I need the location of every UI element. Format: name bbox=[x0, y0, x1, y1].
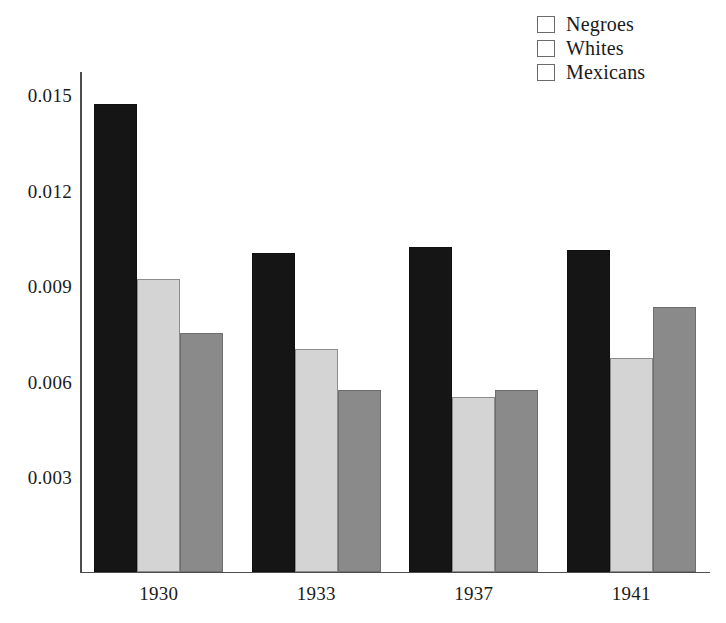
legend-label-negroes: Negroes bbox=[566, 14, 634, 35]
x-tick-label: 1933 bbox=[256, 583, 376, 605]
bar-series-container bbox=[80, 72, 710, 573]
bar-whites-1937 bbox=[452, 397, 495, 572]
legend-swatch-whites bbox=[537, 40, 555, 57]
legend-label-whites: Whites bbox=[566, 38, 624, 59]
legend-item-whites: Whites bbox=[537, 38, 726, 59]
bar-mexicans-1941 bbox=[653, 307, 696, 571]
x-axis-tick-labels: 1930193319371941 bbox=[80, 583, 710, 613]
y-tick-label: 0.006 bbox=[8, 373, 72, 392]
bar-chart: Negroes Whites Mexicans 0.0150.0120.0090… bbox=[0, 0, 726, 623]
y-tick-label: 0.003 bbox=[8, 468, 72, 487]
x-tick-label: 1937 bbox=[414, 583, 534, 605]
bar-whites-1930 bbox=[137, 279, 180, 572]
bar-mexicans-1937 bbox=[495, 390, 538, 571]
y-tick-label: 0.012 bbox=[8, 182, 72, 201]
bar-negroes-1941 bbox=[567, 250, 610, 571]
bar-whites-1933 bbox=[295, 349, 338, 572]
bar-mexicans-1930 bbox=[180, 333, 223, 572]
y-tick-label: 0.009 bbox=[8, 277, 72, 296]
legend-swatch-negroes bbox=[537, 16, 555, 33]
legend-item-negroes: Negroes bbox=[537, 14, 726, 35]
bar-negroes-1937 bbox=[409, 247, 452, 571]
bar-negroes-1930 bbox=[94, 104, 137, 572]
bar-mexicans-1933 bbox=[338, 390, 381, 571]
x-tick-label: 1930 bbox=[99, 583, 219, 605]
x-tick-label: 1941 bbox=[571, 583, 691, 605]
bar-negroes-1933 bbox=[252, 253, 295, 571]
bar-whites-1941 bbox=[610, 358, 653, 571]
y-tick-label: 0.015 bbox=[8, 86, 72, 105]
plot-area bbox=[80, 72, 710, 573]
